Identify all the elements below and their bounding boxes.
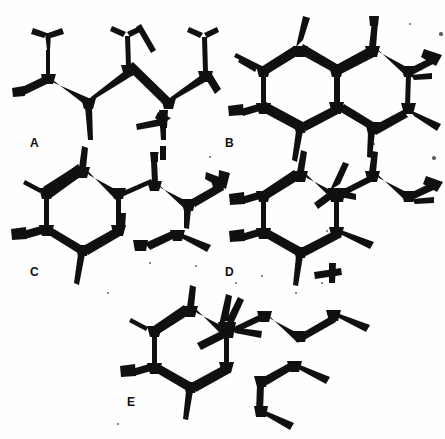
structure-B: [228, 16, 442, 162]
structure-C: [11, 146, 230, 285]
panel-label-B: B: [225, 137, 234, 149]
scan-speck: [149, 262, 151, 264]
scan-speck: [235, 282, 237, 284]
structure-D: [229, 150, 443, 286]
panel-label-D: D: [225, 266, 234, 278]
scan-speck: [117, 423, 119, 425]
structures-canvas: .bond{fill:#101010;} .thin{stroke:#10101…: [0, 0, 445, 439]
scan-speck: [439, 32, 442, 35]
scan-speck: [107, 292, 109, 294]
structure-A: [12, 24, 221, 140]
chemical-structure-figure: .bond{fill:#101010;} .thin{stroke:#10101…: [0, 0, 445, 439]
structure-E: [120, 285, 370, 430]
scan-speck: [432, 156, 436, 160]
scan-speck: [373, 143, 375, 145]
panel-label-C: C: [30, 266, 39, 278]
panel-label-E: E: [127, 396, 135, 408]
panel-label-A: A: [30, 137, 39, 149]
